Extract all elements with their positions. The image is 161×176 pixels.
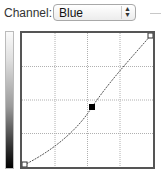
channel-select[interactable]: Blue ▲ ▼ xyxy=(53,4,136,21)
up-down-arrows-icon[interactable]: ▲ ▼ xyxy=(121,6,133,19)
white-point-handle xyxy=(148,33,153,38)
curves-graph[interactable] xyxy=(20,31,155,169)
divider-line xyxy=(150,13,161,14)
curve-plot[interactable] xyxy=(22,33,153,167)
output-gradient-bar xyxy=(5,31,14,169)
black-point-handle xyxy=(22,162,27,167)
control-point-handle xyxy=(89,104,95,110)
channel-label: Channel: xyxy=(4,6,52,20)
grid-lines xyxy=(22,33,153,167)
channel-select-value: Blue xyxy=(59,6,83,20)
